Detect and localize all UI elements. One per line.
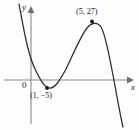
local-minimum-point-marker: [45, 86, 49, 90]
cubic-curve: [19, 4, 123, 127]
graph-figure: y x 0 (5, 27) (1, −5): [0, 0, 139, 130]
x-axis-label: x: [131, 83, 135, 92]
local-minimum-point-label: (1, −5): [30, 92, 52, 100]
y-axis-arrow-icon: [28, 6, 35, 13]
cubic-graph-canvas: [0, 0, 139, 130]
y-axis-label: y: [22, 3, 26, 12]
local-maximum-point-label: (5, 27): [76, 8, 97, 16]
local-maximum-point-marker: [90, 20, 94, 24]
origin-label: 0: [22, 81, 27, 90]
